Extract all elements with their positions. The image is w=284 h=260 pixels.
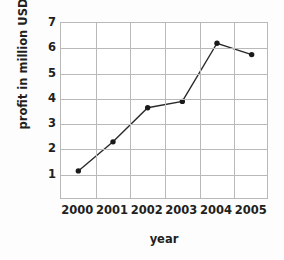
data-point-marker (249, 52, 254, 57)
gridline-vertical (165, 23, 166, 198)
y-axis-tick-label: 3 (40, 117, 56, 129)
y-axis-tick-labels: 1234567 (38, 0, 56, 260)
x-axis-tick-labels: 200020012002200320042005 (60, 203, 268, 219)
plot-area (60, 22, 268, 199)
x-axis-tick-label: 2005 (231, 203, 271, 217)
data-point-marker (76, 168, 81, 173)
y-axis-tick-label: 4 (40, 92, 56, 104)
gridline-vertical (96, 23, 97, 198)
x-axis-title: year (60, 232, 268, 246)
y-axis-tick-label: 2 (40, 142, 56, 154)
data-point-marker (214, 41, 219, 46)
gridline-horizontal (61, 99, 267, 100)
gridline-vertical (200, 23, 201, 198)
gridline-horizontal (61, 124, 267, 125)
y-axis-title: profit in million USD (14, 0, 32, 149)
y-axis-tick-label: 7 (40, 16, 56, 28)
y-axis-tick-label: 6 (40, 41, 56, 53)
gridline-horizontal (61, 74, 267, 75)
y-axis-tick-label: 1 (40, 168, 56, 180)
gridline-vertical (130, 23, 131, 198)
data-point-marker (145, 105, 150, 110)
gridline-horizontal (61, 48, 267, 49)
y-axis-tick-label: 5 (40, 67, 56, 79)
gridline-vertical (234, 23, 235, 198)
line-chart: profit in million USD 1234567 2000200120… (0, 0, 284, 260)
data-point-marker (110, 139, 115, 144)
gridline-horizontal (61, 175, 267, 176)
gridline-horizontal (61, 149, 267, 150)
